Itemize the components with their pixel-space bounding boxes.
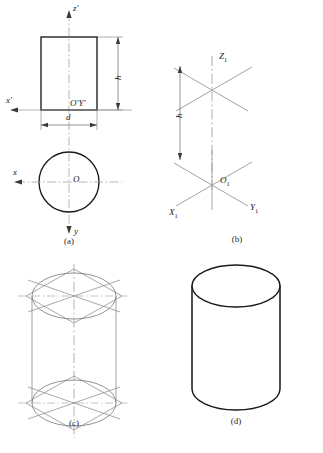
arrowhead-x (14, 179, 22, 184)
axis-y1-line (174, 163, 248, 206)
origin-o1-label: O1 (220, 176, 230, 187)
dimension-diameter-label: d (66, 113, 71, 122)
dimension-height-label-b: h (175, 114, 184, 119)
arrowhead-x-prime (10, 107, 18, 112)
axis-y1-upper-line (174, 68, 248, 111)
origin-o-label: O (73, 175, 80, 184)
dim-d-arrow-right (90, 123, 97, 127)
figure-isometric-cylinder-construction: z' x' O'Y' h d x y O (a) Z1 X1 Y1 O1 (0, 0, 323, 453)
axis-z-prime-label: z' (73, 4, 78, 13)
axis-x1-upper-line (176, 67, 252, 111)
axis-x-prime-label: x' (6, 96, 12, 105)
dim-h-arrow-top-b (178, 66, 182, 73)
caption-c: (c) (54, 418, 94, 428)
axis-y-label: y (74, 227, 78, 236)
dimension-height-label: h (114, 76, 123, 81)
cylinder-top-ellipse (192, 265, 280, 307)
axis-z1-label: Z1 (219, 52, 227, 63)
panel-d: (d) (162, 250, 323, 453)
axis-y1-label: Y1 (250, 203, 258, 214)
panel-b-drawing (162, 0, 323, 250)
panel-a-drawing (0, 0, 162, 250)
arrowhead-y (66, 226, 71, 234)
axis-x-label: x (13, 168, 17, 177)
panel-a: z' x' O'Y' h d x y O (a) (0, 0, 162, 250)
panel-c: (c) (0, 250, 162, 453)
dim-h-arrow-top (116, 37, 120, 44)
caption-a: (a) (49, 236, 89, 246)
axis-x1-label: X1 (169, 208, 178, 219)
panel-b: Z1 X1 Y1 O1 h (b) (162, 0, 323, 250)
dim-h-arrow-bottom (116, 103, 120, 110)
axis-x1-line (176, 162, 252, 206)
caption-b: (b) (217, 234, 257, 244)
dim-h-arrow-bottom-b (178, 153, 182, 160)
caption-d: (d) (216, 416, 256, 426)
arrowhead-z-prime (66, 10, 71, 18)
origin-o-prime-y-prime-label: O'Y' (70, 99, 85, 108)
dim-d-arrow-left (41, 123, 48, 127)
